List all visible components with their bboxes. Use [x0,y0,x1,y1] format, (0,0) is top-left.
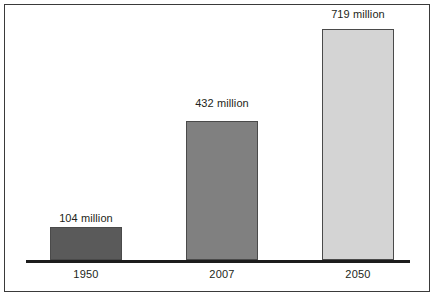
plot-area: 104 million 432 million 719 million 1950… [0,0,436,299]
bar-2050 [322,29,394,260]
x-tick-label-1950: 1950 [50,268,122,280]
bar-2007 [186,121,258,260]
bar-chart-figure: 104 million 432 million 719 million 1950… [0,0,436,299]
bar-1950 [50,227,122,260]
value-label-1950: 104 million [50,212,122,224]
x-axis-baseline [26,260,410,263]
x-tick-label-2050: 2050 [322,268,394,280]
x-tick-label-2007: 2007 [186,268,258,280]
value-label-2050: 719 million [322,8,394,20]
value-label-2007: 432 million [186,97,258,109]
